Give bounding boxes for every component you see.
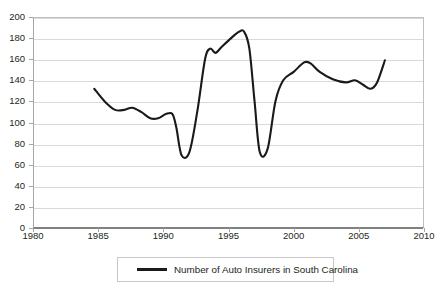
x-tick-label-1990: 1990	[143, 231, 183, 241]
y-tick-label-80: 80	[0, 139, 25, 149]
legend-line-swatch	[137, 268, 167, 271]
y-tick-label-140: 140	[0, 75, 25, 85]
x-tick-label-1985: 1985	[78, 231, 118, 241]
y-tick-label-20: 20	[0, 202, 25, 212]
y-tick-label-180: 180	[0, 33, 25, 43]
legend-item: Number of Auto Insurers in South Carolin…	[118, 264, 358, 275]
y-tick-label-40: 40	[0, 181, 25, 191]
y-tick-label-120: 120	[0, 96, 25, 106]
legend-item-label: Number of Auto Insurers in South Carolin…	[174, 264, 358, 275]
chart-legend: Number of Auto Insurers in South Carolin…	[117, 257, 334, 282]
series-line-0	[94, 30, 385, 158]
x-tick-label-2000: 2000	[274, 231, 314, 241]
y-tick-label-160: 160	[0, 54, 25, 64]
y-tick-label-200: 200	[0, 12, 25, 22]
x-tick-label-2005: 2005	[339, 231, 379, 241]
x-tick-label-2010: 2010	[404, 231, 444, 241]
x-tick-label-1980: 1980	[13, 231, 53, 241]
y-tick-label-60: 60	[0, 160, 25, 170]
y-tick-label-100: 100	[0, 118, 25, 128]
data-series-layer	[33, 17, 424, 228]
chart-container: 020406080100120140160180200 198019851990…	[0, 0, 444, 292]
x-tick-label-1995: 1995	[209, 231, 249, 241]
